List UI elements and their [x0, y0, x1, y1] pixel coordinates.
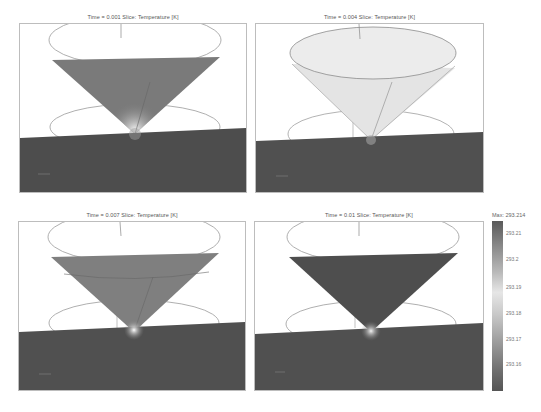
panel-time-001: Time = 0.01 Slice: Temperature [K]: [254, 212, 484, 392]
panel-time-0004: Time = 0.004 Slice: Temperature [K]: [255, 14, 484, 194]
colorbar-tick: 293.16: [506, 361, 521, 367]
colorbar-tick: 293.19: [506, 284, 521, 290]
panel-title: Time = 0.007 Slice: Temperature [K]: [18, 212, 246, 218]
cone-slice-render: [256, 24, 483, 192]
plot-area: [18, 221, 246, 391]
cone-slice-render: [255, 222, 483, 390]
colorbar-tick: 293.21: [506, 230, 521, 236]
panel-time-0001: Time = 0.001 Slice: Temperature [K]: [19, 14, 247, 194]
panel-time-0007: Time = 0.007 Slice: Temperature [K]: [18, 212, 246, 392]
colorbar-legend: Max: 293.214 293.21 293.2 293.19 293.18 …: [492, 212, 541, 392]
colorbar-tick: 293.2: [506, 256, 519, 262]
panel-title: Time = 0.001 Slice: Temperature [K]: [19, 14, 247, 20]
plot-area: [254, 221, 484, 391]
panel-title: Time = 0.004 Slice: Temperature [K]: [255, 14, 484, 20]
colorbar-tick: 293.18: [506, 310, 521, 316]
colorbar-tick: 293.17: [506, 336, 521, 342]
plot-area: [19, 23, 247, 193]
plot-area: [255, 23, 484, 193]
panel-title: Time = 0.01 Slice: Temperature [K]: [254, 212, 484, 218]
colorbar-max-label: Max: 293.214: [492, 212, 525, 218]
colorbar-gradient: [492, 221, 503, 391]
cone-slice-render: [19, 222, 245, 390]
cone-slice-render: [20, 24, 246, 192]
